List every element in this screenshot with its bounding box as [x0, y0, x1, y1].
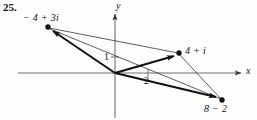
y-axis-label: y [116, 1, 121, 11]
point-marker-a [45, 24, 50, 29]
construction-line-a-to-c [50, 29, 221, 99]
vector-to-point-b [115, 56, 174, 73]
x-axis-label: x [246, 66, 251, 76]
point-label-b: 4 + i [185, 46, 206, 56]
point-marker-b [176, 50, 181, 55]
x-axis-tick-label: 2 [144, 76, 149, 86]
point-label-a: − 4 + 3i [23, 13, 59, 23]
y-axis-tick-label: 1 [104, 52, 109, 62]
point-label-c: 8 − 2 [204, 104, 227, 114]
complex-plane-figure: 25. y x 1 2 − 4 + 3i 4 + i 8 − 2 [0, 0, 257, 120]
construction-lines-group [49, 28, 222, 100]
problem-number: 25. [3, 2, 17, 13]
point-marker-c [219, 97, 224, 102]
